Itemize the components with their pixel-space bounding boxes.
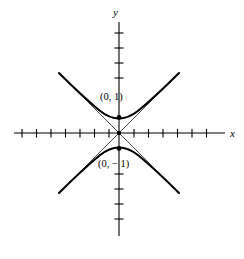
vertex-marker-bottom <box>117 146 122 151</box>
x-axis-label: x <box>230 128 235 139</box>
graph-canvas <box>0 0 244 259</box>
hyperbola-figure: y x (0, 1) (0, − 1) <box>0 0 244 259</box>
vertex-bottom-label: (0, − 1) <box>98 159 129 170</box>
vertex-marker-top <box>117 115 122 120</box>
y-axis-label: y <box>113 7 118 18</box>
vertex-top-label: (0, 1) <box>100 92 123 103</box>
origin-marker <box>117 131 121 135</box>
y-axis-group <box>115 22 124 236</box>
